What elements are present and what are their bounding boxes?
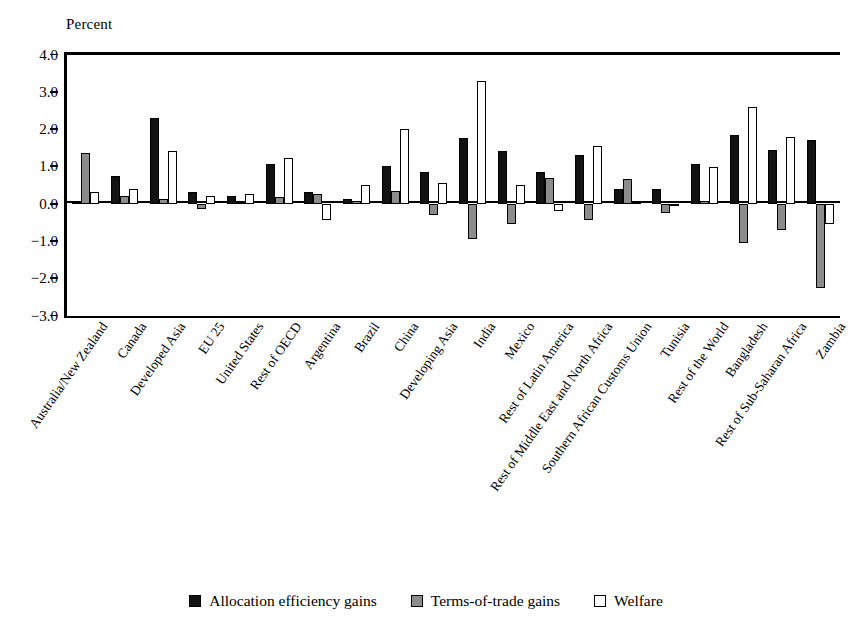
bar-group — [453, 52, 492, 316]
x-axis-label: China — [391, 320, 421, 354]
black-square-icon — [189, 595, 201, 607]
bar-terms-of-trade — [739, 52, 748, 316]
bar-allocation-efficiency — [111, 52, 120, 316]
x-axis-label: Zambia — [813, 320, 848, 362]
legend-label: Terms-of-trade gains — [431, 592, 560, 610]
bar-group — [724, 52, 763, 316]
bar-welfare — [322, 52, 331, 316]
bar-welfare — [670, 52, 679, 316]
bar-group — [492, 52, 531, 316]
x-axis-label: Tunisia — [658, 320, 692, 361]
bar-allocation-efficiency — [382, 52, 391, 316]
bar-welfare — [516, 52, 525, 316]
bar-group — [376, 52, 415, 316]
bar-allocation-efficiency — [691, 52, 700, 316]
bar-welfare — [129, 52, 138, 316]
bar-terms-of-trade — [120, 52, 129, 316]
bar-welfare — [709, 52, 718, 316]
bar-terms-of-trade — [81, 52, 90, 316]
y-tick-mark — [50, 91, 58, 93]
bar-allocation-efficiency — [227, 52, 236, 316]
y-tick-mark — [50, 315, 58, 317]
bar-group — [299, 52, 338, 316]
bar-welfare — [748, 52, 757, 316]
bar-group — [144, 52, 183, 316]
bar-welfare — [786, 52, 795, 316]
y-tick-mark — [50, 165, 58, 167]
bar-terms-of-trade — [661, 52, 670, 316]
x-axis-label: Argentina — [301, 320, 343, 372]
chart-figure: Percent 4.03.02.01.00.0−1.0−2.0−3.0 Aust… — [0, 0, 852, 624]
bar-welfare — [438, 52, 447, 316]
bar-group — [105, 52, 144, 316]
bar-group — [260, 52, 299, 316]
legend-label: Allocation efficiency gains — [209, 592, 377, 610]
bar-group — [763, 52, 802, 316]
bar-welfare — [168, 52, 177, 316]
bar-terms-of-trade — [468, 52, 477, 316]
bar-terms-of-trade — [816, 52, 825, 316]
y-tick-mark — [50, 54, 58, 56]
bar-group — [337, 52, 376, 316]
bar-terms-of-trade — [429, 52, 438, 316]
bar-allocation-efficiency — [498, 52, 507, 316]
bar-welfare — [284, 52, 293, 316]
bar-allocation-efficiency — [420, 52, 429, 316]
bar-allocation-efficiency — [536, 52, 545, 316]
chart-legend: Allocation efficiency gainsTerms-of-trad… — [0, 592, 852, 610]
bar-welfare — [361, 52, 370, 316]
bar-group — [647, 52, 686, 316]
x-axis-label: EU 25 — [196, 320, 227, 356]
bar-terms-of-trade — [313, 52, 322, 316]
x-axis-label: Australia/New Zealand — [27, 320, 110, 431]
bar-allocation-efficiency — [72, 52, 81, 316]
plot-area — [64, 52, 840, 318]
bar-allocation-efficiency — [266, 52, 275, 316]
bar-allocation-efficiency — [730, 52, 739, 316]
x-axis-label: Mexico — [503, 320, 538, 362]
y-tick-mark — [50, 203, 58, 205]
y-tick-mark — [50, 128, 58, 130]
legend-item: Allocation efficiency gains — [189, 592, 377, 610]
bar-welfare — [245, 52, 254, 316]
bar-welfare — [90, 52, 99, 316]
bar-terms-of-trade — [391, 52, 400, 316]
x-axis-label: India — [471, 320, 498, 350]
bar-terms-of-trade — [159, 52, 168, 316]
y-tick-mark — [50, 277, 58, 279]
bar-group — [221, 52, 260, 316]
bar-group — [685, 52, 724, 316]
x-axis-label: Canada — [115, 320, 149, 361]
bar-terms-of-trade — [623, 52, 632, 316]
bar-allocation-efficiency — [188, 52, 197, 316]
bar-allocation-efficiency — [575, 52, 584, 316]
bar-allocation-efficiency — [652, 52, 661, 316]
legend-item: Terms-of-trade gains — [411, 592, 560, 610]
gray-square-icon — [411, 595, 423, 607]
bar-terms-of-trade — [545, 52, 554, 316]
bar-terms-of-trade — [700, 52, 709, 316]
x-axis-label: Brazil — [352, 320, 382, 355]
bar-welfare — [593, 52, 602, 316]
bar-allocation-efficiency — [807, 52, 816, 316]
bar-allocation-efficiency — [768, 52, 777, 316]
bar-group — [531, 52, 570, 316]
bar-group — [569, 52, 608, 316]
legend-label: Welfare — [614, 592, 663, 610]
legend-item: Welfare — [594, 592, 663, 610]
bar-group — [67, 52, 106, 316]
x-axis-category-labels: Australia/New ZealandCanadaDeveloped Asi… — [64, 320, 840, 560]
bar-terms-of-trade — [275, 52, 284, 316]
bar-terms-of-trade — [584, 52, 593, 316]
bar-welfare — [400, 52, 409, 316]
bar-allocation-efficiency — [459, 52, 468, 316]
bar-allocation-efficiency — [614, 52, 623, 316]
bar-terms-of-trade — [236, 52, 245, 316]
y-axis-title: Percent — [66, 16, 112, 33]
bar-group — [608, 52, 647, 316]
bar-welfare — [825, 52, 834, 316]
bar-allocation-efficiency — [304, 52, 313, 316]
y-axis-tick-labels: 4.03.02.01.00.0−1.0−2.0−3.0 — [0, 52, 58, 318]
bar-terms-of-trade — [507, 52, 516, 316]
bar-groups — [67, 52, 841, 316]
